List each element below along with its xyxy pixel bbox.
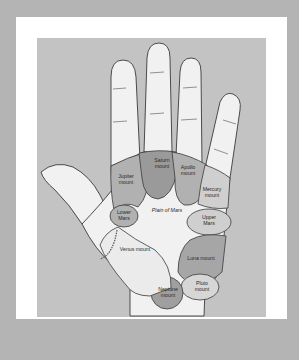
neptune-label: Neptunemount: [158, 286, 178, 298]
apollo-label: Apollomount: [181, 164, 196, 176]
hand-diagram: Jupitermount Saturnmount Apollomount Mer…: [0, 0, 299, 360]
ring-finger: [176, 58, 202, 165]
plain-of-mars-label: Plain of Mars: [152, 207, 183, 213]
middle-finger: [144, 43, 172, 152]
luna-label: Luna mount: [187, 255, 215, 261]
index-finger: [111, 60, 140, 166]
upper-mars-label: UpperMars: [202, 214, 216, 226]
pluto-label: Plutomount: [195, 280, 210, 292]
lower-mars-label: LowerMars: [117, 209, 131, 221]
venus-label: Venus mount: [120, 246, 151, 252]
little-finger: [205, 93, 240, 178]
jupiter-label: Jupitermount: [118, 173, 134, 185]
saturn-label: Saturnmount: [154, 157, 169, 169]
mercury-label: Mercurymount: [203, 186, 222, 198]
